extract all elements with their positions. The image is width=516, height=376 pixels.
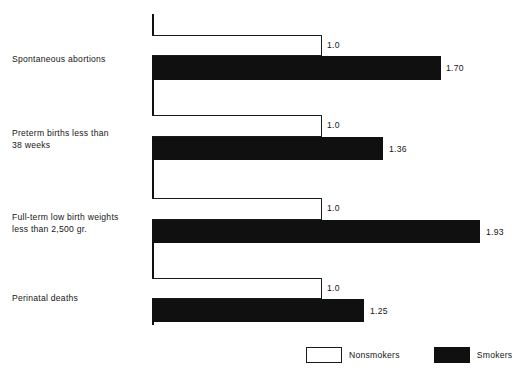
category-label-preterm-births: Preterm births less than 38 weeks — [12, 128, 152, 151]
bar-nonsmokers-perinatal-deaths — [152, 278, 322, 299]
category-label-full-term-low-birth-weights: Full-term low birth weights less than 2,… — [12, 212, 152, 235]
legend-swatch-nonsmokers-icon — [306, 347, 342, 363]
legend-item-nonsmokers: Nonsmokers — [306, 347, 400, 363]
bar-smokers-preterm-births — [152, 137, 383, 160]
value-label-smokers-full-term-low-birth-weights: 1.93 — [486, 227, 504, 237]
category-label-spontaneous-abortions: Spontaneous abortions — [12, 54, 152, 66]
value-label-nonsmokers-preterm-births: 1.0 — [327, 120, 340, 130]
bar-nonsmokers-full-term-low-birth-weights — [152, 198, 322, 220]
value-label-smokers-perinatal-deaths: 1.25 — [370, 306, 388, 316]
bar-smokers-full-term-low-birth-weights — [152, 220, 480, 243]
bar-smokers-perinatal-deaths — [152, 299, 364, 322]
value-label-smokers-spontaneous-abortions: 1.70 — [446, 63, 464, 73]
chart-legend: Nonsmokers Smokers — [306, 344, 512, 366]
legend-item-smokers: Smokers — [434, 347, 513, 363]
legend-swatch-smokers-icon — [434, 347, 470, 363]
value-label-nonsmokers-spontaneous-abortions: 1.0 — [327, 40, 340, 50]
legend-label-nonsmokers: Nonsmokers — [349, 350, 400, 360]
legend-label-smokers: Smokers — [477, 350, 513, 360]
bar-nonsmokers-preterm-births — [152, 115, 322, 137]
value-label-nonsmokers-perinatal-deaths: 1.0 — [327, 283, 340, 293]
category-label-perinatal-deaths: Perinatal deaths — [12, 293, 152, 305]
value-label-nonsmokers-full-term-low-birth-weights: 1.0 — [327, 203, 340, 213]
bar-smokers-spontaneous-abortions — [152, 56, 441, 80]
value-label-smokers-preterm-births: 1.36 — [389, 144, 407, 154]
bar-nonsmokers-spontaneous-abortions — [152, 35, 322, 56]
bar-chart: Spontaneous abortions 1.0 1.70 Preterm b… — [0, 0, 516, 376]
